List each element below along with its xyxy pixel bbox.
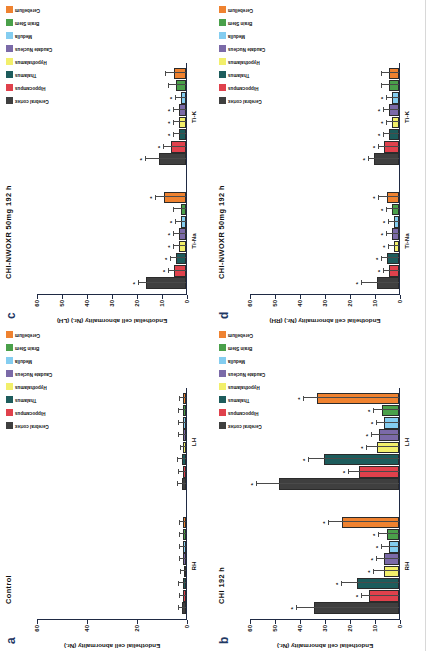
axis-tick-label: 50 [59, 300, 65, 317]
legend-swatch [6, 396, 13, 403]
legend-item: Brain Stem [219, 342, 265, 353]
panel-d: d CHI-NWOXR 50mg 192 h Cerebral cortexHi… [213, 0, 426, 325]
error-bar-cap [381, 256, 382, 261]
axis-tick-label: 20 [134, 625, 140, 642]
axis-tick [400, 295, 401, 299]
group-label: RH [190, 562, 197, 571]
significance-marker: * [167, 245, 173, 247]
significance-marker: * [380, 97, 386, 99]
group-label: LH [190, 438, 197, 446]
axis-tick [250, 620, 251, 624]
significance-marker: * [365, 434, 371, 436]
significance-marker: * [377, 109, 383, 111]
axis-tick [187, 620, 188, 624]
axis-tick-label: 0 [397, 625, 403, 642]
error-bar [382, 546, 400, 547]
significance-marker: * [380, 233, 386, 235]
error-bar [329, 521, 399, 522]
error-bar-cap [178, 469, 179, 474]
significance-marker: * [377, 270, 383, 272]
legend-label: Thalamus [15, 397, 36, 402]
bar [171, 141, 186, 153]
error-bar [387, 208, 400, 209]
panel-d-plot: 0102030405060Endothelial cell abnormalit… [250, 63, 400, 295]
legend-label: Cerebellum [15, 332, 40, 337]
legend-label: Cerebellum [228, 332, 253, 337]
legend-label: Medulla [15, 358, 32, 363]
bars: **************** [250, 388, 399, 619]
error-bar-cap [168, 268, 169, 273]
axis-tick [400, 620, 401, 624]
error-bar-cap [170, 256, 171, 261]
bar [159, 153, 187, 165]
bar [377, 442, 400, 454]
legend-swatch [219, 32, 226, 39]
error-bar-cap [361, 593, 362, 598]
legend-label: Caudate Nucleus [228, 371, 265, 376]
error-bar-cap [178, 420, 179, 425]
error-bar-cap [383, 132, 384, 137]
panel-b-label: b [217, 637, 231, 644]
significance-marker: * [360, 446, 366, 448]
significance-marker: * [355, 595, 361, 597]
error-bar [171, 257, 186, 258]
significance-marker: * [149, 196, 155, 198]
error-bar [377, 422, 400, 423]
axis-tick [300, 295, 301, 299]
legend-label: Thalamus [15, 72, 36, 77]
group-label: LH [403, 438, 410, 446]
axis-tick [137, 620, 138, 624]
error-bar-cap [303, 396, 304, 401]
significance-marker: * [167, 121, 173, 123]
significance-marker: * [169, 221, 175, 223]
error-bar-cap [296, 605, 297, 610]
axis-tick [187, 295, 188, 299]
bars: ************** [250, 63, 399, 294]
axis-tick [275, 620, 276, 624]
significance-marker: * [167, 109, 173, 111]
error-bar-cap [378, 532, 379, 537]
panel-c-canvas: c CHI-NWOXR 50mg 192 h Cerebral cortexHi… [0, 0, 213, 325]
error-bar-cap [165, 71, 166, 76]
axis-tick-label: 0 [397, 300, 403, 317]
axis-tick-label: 60 [247, 300, 253, 317]
panel-b-canvas: b CHI 192 h Cerebral cortexHippocampusTh… [213, 325, 426, 650]
figure-page: c CHI-NWOXR 50mg 192 h Cerebral cortexHi… [0, 0, 426, 651]
legend-swatch [219, 97, 226, 104]
axis-tick-label: 30 [109, 300, 115, 317]
bar [389, 541, 399, 553]
error-bar [156, 196, 186, 197]
legend-item: Cerebellum [6, 4, 52, 15]
axis-tick [350, 620, 351, 624]
significance-marker: * [164, 258, 170, 260]
axis-tick-label: 0 [184, 300, 190, 317]
significance-marker: * [372, 196, 378, 198]
bar [369, 590, 399, 602]
error-bar [174, 109, 187, 110]
error-bar [387, 121, 400, 122]
error-bar-cap [179, 396, 180, 401]
legend-swatch [219, 84, 226, 91]
error-bar [379, 533, 399, 534]
axis-tick [37, 295, 38, 299]
legend-swatch [6, 84, 13, 91]
bar [389, 265, 399, 277]
error-bar-cap [361, 280, 362, 285]
error-bar-cap [138, 280, 139, 285]
significance-marker: * [382, 245, 388, 247]
legend-item: Brain Stem [219, 17, 265, 28]
error-bar [146, 158, 186, 159]
error-bar [384, 270, 399, 271]
axis-tick [350, 295, 351, 299]
legend-item: Medulla [6, 355, 52, 366]
legend-item: Cerebellum [219, 329, 265, 340]
error-bar [387, 233, 400, 234]
error-bar-cap [173, 107, 174, 112]
legend-label: Cerebellum [15, 7, 40, 12]
axis-title: Endothelial cell abnormality (Nr.) (RH) [269, 318, 380, 325]
bar [379, 429, 399, 441]
error-bar-cap [366, 445, 367, 450]
panel-a-canvas: a Control Cerebral cortexHippocampusThal… [0, 325, 213, 650]
significance-marker: * [322, 521, 328, 523]
error-bar [372, 434, 400, 435]
